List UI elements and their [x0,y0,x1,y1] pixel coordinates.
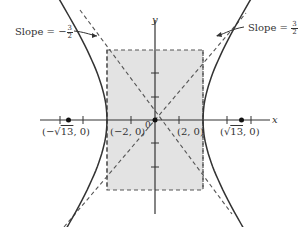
focus-right-label: (√13, 0) [220,127,260,137]
focus-right-point [239,118,244,123]
focus-right-close: , 0) [243,126,260,137]
slope-right-den: 2 [291,29,297,36]
slope-right-arrowhead [216,32,222,37]
focus-left-open: (− [42,126,54,137]
x-axis-label: x [272,115,278,125]
origin-label: 0 [145,121,151,130]
slope-left-label: Slope = −32 [15,25,73,40]
focus-left-label: (−√13, 0) [42,127,90,137]
slope-right-fraction: 32 [291,21,297,36]
focus-left-close: , 0) [73,126,90,137]
focus-left-radicand: 13 [61,126,74,137]
slope-left-den: 2 [67,33,73,40]
vertex-right-label: (2, 0) [177,127,204,137]
focus-left-point [66,118,71,123]
focus-right-radicand: 13 [230,126,243,137]
slope-left-prefix: Slope = − [15,26,67,37]
slope-right-label: Slope = 32 [248,21,298,36]
vertex-left-label: (−2, 0) [110,127,145,137]
slope-left-fraction: 32 [67,25,73,40]
origin-point [153,118,158,123]
slope-right-prefix: Slope = [248,22,291,33]
y-axis-label: y [152,15,158,25]
